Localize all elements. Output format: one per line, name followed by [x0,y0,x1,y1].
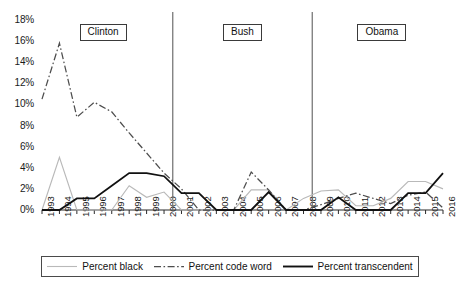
legend-entry-percent-transcendent[interactable]: Percent transcendent [283,261,413,272]
series-layer [42,43,443,210]
legend-entry-percent-code-word[interactable]: Percent code word [154,261,272,272]
legend-label: Percent transcendent [318,261,413,272]
dash-dot-line-icon [154,262,184,271]
legend-label: Percent code word [189,261,272,272]
chart-legend: Percent blackPercent code wordPercent tr… [41,256,419,277]
legend-entry-percent-black[interactable]: Percent black [47,261,143,272]
era-divider-layer [173,12,312,210]
legend-label: Percent black [82,261,143,272]
series-line-percent-code-word [42,43,443,210]
solid-light-line-icon [47,262,77,271]
series-line-percent-black [42,157,443,210]
solid-dark-line-icon [283,262,313,271]
